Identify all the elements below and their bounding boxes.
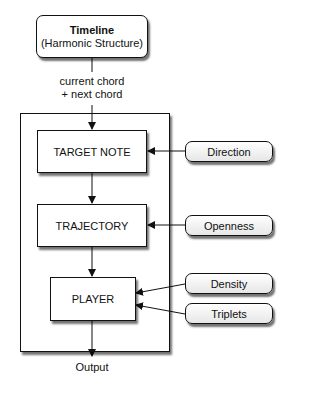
input-label: current chord + next chord	[52, 75, 132, 101]
density-label: Density	[211, 278, 248, 290]
player-label: PLAYER	[72, 293, 115, 305]
trajectory-label: TRAJECTORY	[56, 220, 129, 232]
timeline-title: Timeline	[70, 24, 114, 37]
density-param: Density	[185, 273, 273, 294]
triplets-param: Triplets	[185, 303, 273, 324]
trajectory-box: TRAJECTORY	[37, 204, 147, 247]
direction-param: Direction	[185, 141, 273, 162]
openness-param: Openness	[185, 215, 273, 236]
timeline-subtitle: (Harmonic Structure)	[41, 37, 143, 50]
timeline-box: Timeline (Harmonic Structure)	[36, 15, 148, 58]
direction-label: Direction	[207, 146, 250, 158]
input-label-line2: + next chord	[52, 88, 132, 101]
output-label: Output	[62, 361, 122, 373]
openness-label: Openness	[204, 220, 254, 232]
target-note-box: TARGET NOTE	[37, 130, 147, 173]
target-note-label: TARGET NOTE	[53, 146, 130, 158]
triplets-label: Triplets	[211, 308, 247, 320]
input-label-line1: current chord	[52, 75, 132, 88]
player-box: PLAYER	[50, 277, 136, 321]
